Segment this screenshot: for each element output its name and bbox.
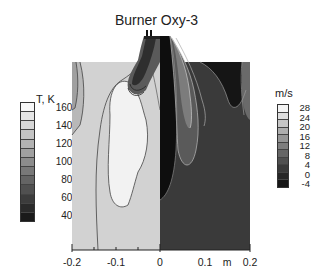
x-tick-label: 0 [157, 256, 163, 268]
x-axis-ticks: -0.2 -0.1 0 0.1 m 0.2 [0, 256, 313, 270]
x-tick-label: -0.2 [63, 256, 81, 268]
x-tick-label: -0.1 [107, 256, 125, 268]
x-tick-label: 0.1 [198, 256, 213, 268]
contour-plot [0, 0, 313, 278]
velocity-field [160, 36, 250, 250]
x-axis-unit: m [223, 256, 232, 268]
temperature-field [72, 30, 160, 250]
x-tick-label: 0.2 [243, 256, 258, 268]
